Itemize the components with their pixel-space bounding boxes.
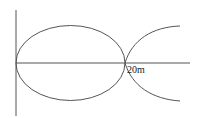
right-upper-arc	[125, 26, 180, 63]
diagram-canvas	[0, 0, 200, 118]
distance-label: 20m	[127, 65, 145, 75]
